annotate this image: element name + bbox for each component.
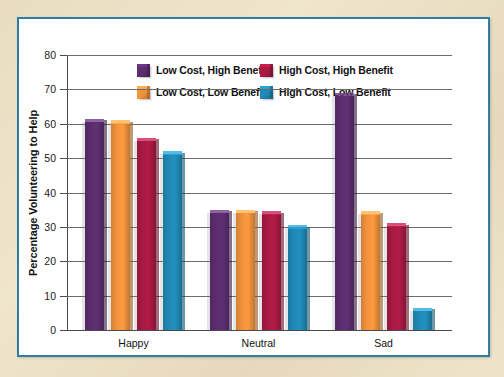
bar-side <box>182 153 185 330</box>
bar-face <box>137 141 156 331</box>
bar-top <box>210 210 229 214</box>
y-axis-title-text: Percentage Volunteering to Help <box>27 109 39 275</box>
bar-side <box>380 213 383 330</box>
y-axis-tick-label: 40 <box>44 187 56 199</box>
bar-face <box>163 154 182 330</box>
y-tick-50 <box>60 158 67 159</box>
y-axis-title: Percentage Volunteering to Help <box>25 55 41 330</box>
bar <box>85 119 104 330</box>
bar-top <box>361 211 380 215</box>
bar-side <box>229 211 232 330</box>
bar-side <box>156 139 159 330</box>
bar-side <box>130 122 133 330</box>
bar <box>137 138 156 331</box>
bar-top <box>413 308 432 312</box>
bar-top <box>236 210 255 214</box>
bar-side <box>432 309 435 330</box>
bar <box>262 211 281 330</box>
gridline-0 <box>67 330 452 331</box>
bar-face <box>236 213 255 330</box>
y-tick-0 <box>60 330 67 331</box>
y-tick-80 <box>60 55 67 56</box>
y-tick-60 <box>60 124 67 125</box>
bar-top <box>85 119 104 123</box>
bar-top <box>137 138 156 142</box>
figure-inner-panel: Percentage Volunteering to Help Low Cost… <box>17 17 490 357</box>
bar <box>163 151 182 330</box>
bar <box>288 225 307 330</box>
bar-face <box>413 311 432 330</box>
bar <box>413 308 432 330</box>
y-axis-tick-label: 10 <box>44 290 56 302</box>
bar-side <box>281 213 284 330</box>
bar-face <box>288 228 307 330</box>
bar-top <box>111 120 130 124</box>
bar-face <box>262 214 281 330</box>
bar <box>387 223 406 330</box>
y-tick-10 <box>60 296 67 297</box>
bar <box>335 93 354 330</box>
bar <box>236 210 255 330</box>
bar-face <box>361 214 380 330</box>
y-tick-40 <box>60 193 67 194</box>
bar-face <box>387 226 406 330</box>
bar-face <box>111 123 130 330</box>
y-axis-tick-label: 70 <box>44 83 56 95</box>
bar <box>210 210 229 330</box>
x-axis-category-label: Happy <box>118 337 148 349</box>
plot-area: 01020304050607080 <box>67 55 452 330</box>
y-tick-20 <box>60 261 67 262</box>
bar-side <box>104 120 107 330</box>
gridline-70 <box>67 89 452 90</box>
y-axis-tick-label: 80 <box>44 49 56 61</box>
bar-top <box>288 225 307 229</box>
bar <box>361 211 380 330</box>
bar-top <box>163 151 182 155</box>
y-tick-30 <box>60 227 67 228</box>
bar-side <box>406 225 409 330</box>
bar-top <box>262 211 281 215</box>
bar <box>111 120 130 330</box>
x-axis-category-label: Sad <box>374 337 393 349</box>
bar-face <box>85 122 104 330</box>
y-tick-70 <box>60 89 67 90</box>
y-axis-tick-label: 50 <box>44 152 56 164</box>
figure-outer-frame: Percentage Volunteering to Help Low Cost… <box>0 0 504 377</box>
bar-side <box>255 211 258 330</box>
gridline-80 <box>67 55 452 56</box>
y-axis-tick-label: 60 <box>44 118 56 130</box>
bar-face <box>335 96 354 330</box>
y-axis-tick-label: 30 <box>44 221 56 233</box>
y-axis-tick-label: 20 <box>44 255 56 267</box>
bar-top <box>387 223 406 227</box>
bar-top <box>335 93 354 97</box>
bar-face <box>210 213 229 330</box>
bar-side <box>307 227 310 330</box>
x-axis-category-label: Neutral <box>242 337 276 349</box>
bar-side <box>354 94 357 330</box>
y-axis-tick-label: 0 <box>50 324 56 336</box>
